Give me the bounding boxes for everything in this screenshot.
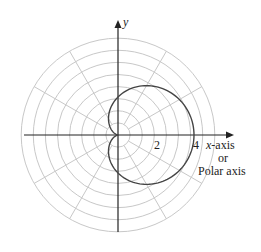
y-axis-label: y (122, 15, 129, 29)
y-axis-arrow-icon (115, 20, 122, 28)
tick-label-4: 4 (193, 138, 199, 152)
tick-label-2: 2 (154, 138, 160, 152)
polar-diagram: y 2 4 x-axis or Polar axis (0, 0, 261, 252)
x-axis-label-or: or (218, 151, 228, 165)
axes (24, 26, 228, 232)
polar-axis-label: Polar axis (198, 164, 246, 178)
x-axis-label: x-axis (205, 138, 235, 152)
